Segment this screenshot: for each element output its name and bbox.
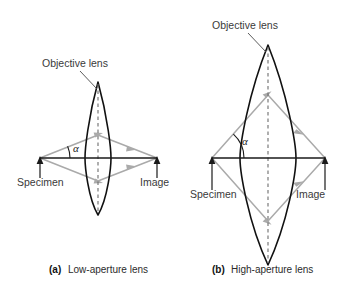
panel-b-caption-tag: (b): [212, 264, 225, 275]
diagram-canvas: α Objective lens Specimen Image: [0, 0, 337, 292]
ray-upper-out: [98, 135, 157, 158]
caption-row: (a) Low-aperture lens (b) High-aperture …: [49, 264, 313, 275]
panel-a-angle-label: α: [73, 142, 79, 154]
panel-a-caption-text: Low-aperture lens: [68, 264, 148, 275]
panel-b-image-label: Image: [296, 188, 325, 200]
panel-a-lens-label: Objective lens: [42, 57, 108, 69]
panel-a-group: α Objective lens Specimen Image: [17, 57, 169, 215]
panel-b-caption-text: High-aperture lens: [231, 264, 313, 275]
panel-b-lens-label: Objective lens: [212, 19, 278, 31]
panel-a-lens-leader: [80, 71, 97, 89]
panel-a-image-label: Image: [140, 176, 169, 188]
panel-a-angle-arc: [68, 146, 70, 158]
panel-b-specimen-label: Specimen: [190, 188, 237, 200]
ray-upper-in: [40, 135, 98, 158]
panel-b-angle-label: α: [242, 135, 248, 147]
figure-root: α Objective lens Specimen Image: [0, 0, 337, 292]
panel-b-group: α Objective lens Specimen Image: [190, 19, 328, 265]
panel-b-lens-leader: [248, 33, 266, 52]
panel-a-caption-tag: (a): [49, 264, 61, 275]
panel-a-specimen-label: Specimen: [17, 176, 64, 188]
ray-upper-out: [268, 95, 325, 158]
